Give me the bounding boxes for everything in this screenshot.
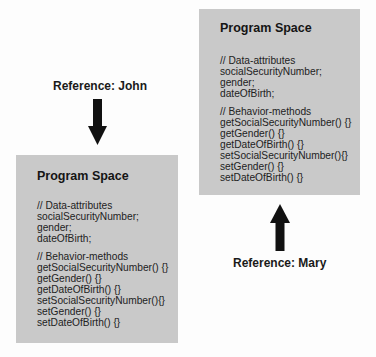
- behavior-methods-block: // Behavior-methods getSocialSecurityNum…: [220, 106, 351, 183]
- arrow-up-icon: [269, 204, 291, 251]
- method-line: getDateOfBirth() {}: [37, 284, 168, 295]
- program-space-title: Program Space: [220, 21, 312, 35]
- method-line: getSocialSecurityNumber() {}: [37, 262, 168, 273]
- attribute-line: gender;: [220, 77, 322, 88]
- data-attributes-block: // Data-attributes socialSecurityNumber;…: [37, 200, 139, 244]
- diagram-canvas: Reference: John Program Space // Data-at…: [0, 0, 376, 357]
- attribute-line: socialSecurityNumber;: [220, 66, 322, 77]
- behavior-methods-comment: // Behavior-methods: [220, 106, 351, 117]
- program-space-box-john: Program Space // Data-attributes socialS…: [16, 155, 178, 343]
- data-attributes-comment: // Data-attributes: [220, 55, 322, 66]
- attribute-line: dateOfBirth;: [220, 88, 322, 99]
- behavior-methods-block: // Behavior-methods getSocialSecurityNum…: [37, 251, 168, 328]
- method-line: getGender() {}: [220, 128, 351, 139]
- arrow-down-icon: [87, 99, 108, 145]
- attribute-line: gender;: [37, 222, 139, 233]
- method-line: setSocialSecurityNumber(){}: [220, 150, 351, 161]
- method-line: getDateOfBirth() {}: [220, 139, 351, 150]
- reference-label-john: Reference: John: [53, 79, 147, 93]
- program-space-title: Program Space: [37, 169, 129, 183]
- program-space-box-mary: Program Space // Data-attributes socialS…: [199, 9, 360, 195]
- data-attributes-block: // Data-attributes socialSecurityNumber;…: [220, 55, 322, 99]
- data-attributes-comment: // Data-attributes: [37, 200, 139, 211]
- attribute-line: socialSecurityNumber;: [37, 211, 139, 222]
- behavior-methods-comment: // Behavior-methods: [37, 251, 168, 262]
- method-line: setGender() {}: [37, 306, 168, 317]
- reference-label-mary: Reference: Mary: [233, 256, 326, 270]
- attribute-line: dateOfBirth;: [37, 233, 139, 244]
- method-line: setDateOfBirth() {}: [37, 317, 168, 328]
- method-line: setSocialSecurityNumber(){}: [37, 295, 168, 306]
- method-line: getGender() {}: [37, 273, 168, 284]
- method-line: setDateOfBirth() {}: [220, 172, 351, 183]
- method-line: getSocialSecurityNumber() {}: [220, 117, 351, 128]
- method-line: setGender() {}: [220, 161, 351, 172]
